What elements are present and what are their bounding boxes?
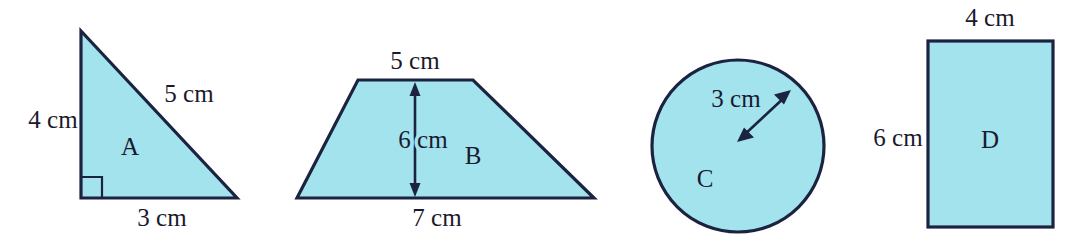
shape-c-circle-group: 3 cm C <box>652 60 824 232</box>
trapezoid-bottom-dimension-label: 7 cm <box>412 204 462 231</box>
shape-a-triangle-group: 4 cm 5 cm 3 cm A <box>28 31 237 231</box>
shape-a-letter-label: A <box>121 133 139 160</box>
trapezoid-top-dimension-label: 5 cm <box>390 47 440 74</box>
shape-c-letter-label: C <box>697 165 714 192</box>
shape-a-triangle <box>81 31 237 198</box>
shape-b-trapezoid-group: 5 cm 6 cm 7 cm B <box>297 47 594 231</box>
triangle-hypotenuse-dimension-label: 5 cm <box>164 80 214 107</box>
rectangle-width-dimension-label: 4 cm <box>965 4 1015 31</box>
geometry-figure-canvas: 4 cm 5 cm 3 cm A 5 cm 6 cm 7 cm B 3 cm C… <box>0 0 1067 243</box>
triangle-leg-dimension-label: 4 cm <box>28 106 78 133</box>
triangle-base-dimension-label: 3 cm <box>137 204 187 231</box>
shape-d-rectangle-group: 4 cm 6 cm D <box>873 4 1053 227</box>
rectangle-height-dimension-label: 6 cm <box>873 124 923 151</box>
shape-b-letter-label: B <box>465 142 482 169</box>
trapezoid-height-dimension-label: 6 cm <box>398 126 448 153</box>
shape-d-letter-label: D <box>981 126 999 153</box>
circle-radius-dimension-label: 3 cm <box>711 85 761 112</box>
